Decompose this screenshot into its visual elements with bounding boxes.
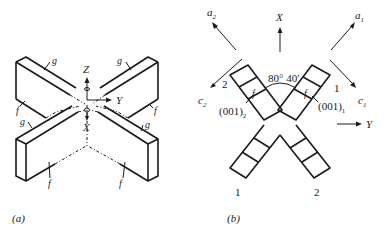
face-label-g: g bbox=[117, 55, 122, 66]
axis-y-b-label: Y bbox=[366, 118, 374, 130]
axis-x-b: X bbox=[275, 11, 284, 52]
face-label-f: f bbox=[252, 88, 256, 99]
axis-a2-label: a2 bbox=[207, 6, 217, 21]
face-label-g: g bbox=[145, 119, 150, 130]
axis-z-label: Z bbox=[83, 63, 90, 75]
axis-y-label: Y bbox=[116, 94, 124, 106]
arm-label-bottom-right: 2 bbox=[314, 186, 320, 198]
caption-b: (b) bbox=[227, 212, 240, 225]
figure-b-cross-section: 80° 40′ f f (001)2 (001)1 2 1 1 2 X a2 a… bbox=[198, 6, 374, 225]
axis-x-label: X bbox=[82, 121, 91, 133]
arm-label-top-left: 2 bbox=[222, 78, 228, 90]
face-label-g: g bbox=[52, 55, 57, 66]
axis-y: Y bbox=[87, 94, 124, 106]
arm-label-bottom-left: 1 bbox=[235, 186, 241, 198]
face-label-f: f bbox=[154, 105, 158, 116]
face-label-f: f bbox=[119, 178, 123, 189]
plane-label-2: (001)2 bbox=[219, 105, 247, 120]
axis-c2: c2 bbox=[198, 59, 242, 109]
twin-crystal-diagram: Z Y X g g f f g g f bbox=[0, 0, 385, 233]
face-label-g: g bbox=[20, 116, 25, 127]
caption-a: (a) bbox=[12, 212, 25, 225]
axis-c2-label: c2 bbox=[198, 94, 207, 109]
axis-x: X bbox=[82, 108, 91, 133]
face-label-f: f bbox=[48, 178, 52, 189]
axis-c1-label: c1 bbox=[358, 94, 366, 109]
plane-label-1: (001)1 bbox=[318, 100, 346, 115]
axis-a2: a2 bbox=[207, 6, 236, 50]
angle-label: 80° 40′ bbox=[268, 72, 300, 84]
axis-x-b-label: X bbox=[275, 11, 284, 23]
axis-a1: a1 bbox=[331, 9, 364, 50]
axis-y-b: Y bbox=[337, 118, 374, 130]
axis-z: Z bbox=[83, 63, 90, 100]
axis-a1-label: a1 bbox=[355, 9, 364, 24]
face-label-f: f bbox=[16, 105, 20, 116]
arm-label-top-right: 1 bbox=[334, 82, 340, 94]
figure-a-isometric-twin: Z Y X g g f f g g f bbox=[12, 55, 158, 225]
